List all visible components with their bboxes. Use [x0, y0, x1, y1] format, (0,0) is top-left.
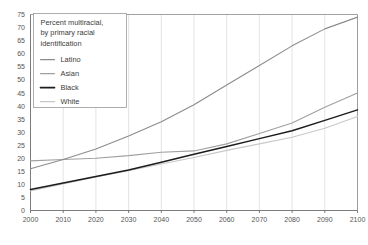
- y-axis-tick-label: 10: [17, 181, 25, 188]
- y-axis-tick-label: 30: [17, 129, 25, 136]
- line-chart: 051015202530354045505560657075 200020102…: [0, 0, 368, 245]
- legend-title-line: by primary racial: [41, 28, 96, 37]
- x-axis-tick-label: 2070: [252, 216, 268, 223]
- x-axis-tick-labels: 2000201020202030204020502060207020802090…: [23, 216, 366, 223]
- legend-label-black: Black: [61, 83, 79, 92]
- y-axis-tick-label: 5: [21, 194, 25, 201]
- y-axis-tick-label: 35: [17, 116, 25, 123]
- y-axis-tick-label: 0: [21, 207, 25, 214]
- legend-label-latino: Latino: [61, 55, 81, 64]
- x-axis-tick-label: 2020: [88, 216, 104, 223]
- legend-title-line: Percent multiracial,: [41, 18, 104, 27]
- x-axis-tick-label: 2060: [219, 216, 235, 223]
- x-axis-tick-label: 2040: [154, 216, 170, 223]
- y-axis-tick-label: 60: [17, 50, 25, 57]
- y-axis-tick-labels: 051015202530354045505560657075: [17, 11, 25, 214]
- y-axis-tick-label: 45: [17, 90, 25, 97]
- x-axis-tick-label: 2030: [121, 216, 137, 223]
- y-axis-tick-label: 25: [17, 142, 25, 149]
- x-axis-tick-label: 2100: [350, 216, 366, 223]
- y-axis-tick-label: 70: [17, 24, 25, 31]
- y-axis-tick-label: 40: [17, 103, 25, 110]
- legend-label-asian: Asian: [61, 69, 80, 78]
- y-axis-tick-label: 50: [17, 76, 25, 83]
- x-axis-tick-label: 2000: [23, 216, 39, 223]
- legend-title-line: identification: [41, 39, 82, 48]
- y-axis-tick-label: 20: [17, 155, 25, 162]
- legend-label-white: White: [61, 97, 80, 106]
- y-axis-tick-label: 65: [17, 37, 25, 44]
- y-axis-tick-label: 15: [17, 168, 25, 175]
- y-axis-tick-label: 55: [17, 63, 25, 70]
- y-axis-tick-label: 75: [17, 11, 25, 18]
- chart-container: 051015202530354045505560657075 200020102…: [0, 0, 368, 245]
- x-axis-tick-label: 2080: [284, 216, 300, 223]
- x-axis-tick-label: 2090: [317, 216, 333, 223]
- x-axis-tick-label: 2050: [186, 216, 202, 223]
- x-axis-tick-label: 2010: [55, 216, 71, 223]
- chart-legend: Percent multiracial,by primary racialide…: [34, 14, 127, 108]
